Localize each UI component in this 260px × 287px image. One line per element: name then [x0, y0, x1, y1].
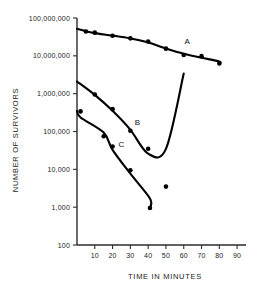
data-point-a [146, 39, 151, 44]
curve-a [77, 29, 221, 64]
x-axis-ticks: 102030405060708090 [91, 245, 242, 259]
data-point-c [110, 144, 115, 149]
data-point-a [164, 46, 169, 51]
data-point-b [164, 184, 169, 189]
data-point-b [146, 146, 151, 151]
survival-curve-chart: NUMBER OF SURVIVORS TIME IN MINUTES 1001… [0, 0, 260, 287]
y-tick-label: 100 [58, 242, 70, 249]
curve-label-c: C [119, 140, 125, 149]
data-point-a [128, 36, 133, 41]
data-point-a [84, 29, 89, 34]
x-tick-label: 80 [215, 252, 223, 259]
curve-label-a: A [185, 37, 191, 46]
curve-label-b: B [135, 118, 140, 127]
curve-c [77, 111, 151, 208]
data-point-c [148, 206, 153, 211]
curves-layer [77, 29, 221, 208]
x-tick-label: 50 [162, 252, 170, 259]
x-tick-label: 90 [233, 252, 241, 259]
data-point-a [181, 53, 186, 58]
data-point-c [78, 109, 83, 114]
data-point-a [110, 33, 115, 38]
y-tick-label: 1,000,000 [37, 90, 70, 97]
data-point-b [110, 107, 115, 112]
y-axis-title: NUMBER OF SURVIVORS [11, 88, 20, 192]
data-points-layer [78, 29, 221, 210]
data-point-a [199, 54, 204, 59]
y-tick-label: 100,000 [43, 128, 70, 135]
y-tick-label: 10,000 [47, 166, 70, 173]
y-tick-label: 10,000,000 [33, 52, 70, 59]
x-tick-label: 40 [144, 252, 152, 259]
x-tick-label: 10 [91, 252, 99, 259]
y-axis-title-text: NUMBER OF SURVIVORS [11, 88, 20, 192]
x-tick-label: 20 [108, 252, 116, 259]
y-axis-ticks: 1001,00010,000100,0001,000,00010,000,000… [29, 15, 77, 249]
chart-canvas: NUMBER OF SURVIVORS TIME IN MINUTES 1001… [0, 0, 260, 287]
x-tick-label: 60 [180, 252, 188, 259]
curve-b [77, 74, 184, 158]
x-axis-title: TIME IN MINUTES [128, 272, 202, 281]
data-point-b [92, 92, 97, 97]
y-tick-label: 1,000 [51, 204, 70, 211]
x-tick-label: 30 [126, 252, 134, 259]
data-point-c [101, 134, 106, 139]
x-tick-label: 70 [197, 252, 205, 259]
y-tick-label: 100,000,000 [29, 15, 70, 22]
data-point-a [92, 30, 97, 35]
data-point-c [128, 168, 133, 173]
data-point-b [128, 128, 133, 133]
x-axis-title-text: TIME IN MINUTES [128, 272, 202, 281]
data-point-a [217, 61, 222, 66]
